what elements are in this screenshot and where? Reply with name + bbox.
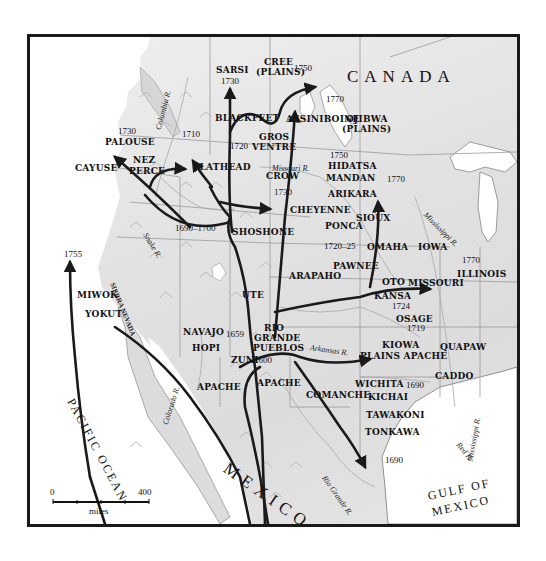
year-ojibwa: 1770: [326, 94, 344, 104]
year-ponca: 1720–25: [324, 241, 356, 251]
tribe-navajo: NAVAJO: [183, 327, 224, 337]
tribe-kichai: KICHAI: [368, 392, 408, 402]
tribe-gros-ventre-line1: GROS: [259, 132, 289, 142]
tribe-rio-grande-pueblos-line1: RIO: [264, 323, 284, 333]
tribe-pawnee: PAWNEE: [333, 261, 379, 271]
year-gros-ventre: 1720: [230, 141, 248, 151]
year-kiowa: 1719: [407, 323, 425, 333]
tribe-cayuse: CAYUSE: [75, 163, 118, 173]
tribe-crow: CROW: [266, 171, 299, 181]
year-missouri-upper: 1750: [330, 150, 348, 160]
tribe-wichita: WICHITA: [355, 379, 404, 389]
tribe-hopi: HOPI: [192, 343, 220, 353]
year-zuni: 1600: [254, 355, 272, 365]
tribe-quapaw: QUAPAW: [440, 342, 486, 352]
route-cree: [230, 87, 315, 132]
year-miwok: 1755: [64, 249, 82, 259]
tribe-oto: OTO: [382, 277, 405, 287]
tribe-nez-perce-line1: NEZ: [133, 155, 155, 165]
year-cree: 1750: [294, 63, 312, 73]
migration-map: CANADA MEXICO PACIFIC OCEAN GULF OF MEXI…: [27, 34, 520, 527]
route-crow: [220, 202, 270, 209]
tribe-gros-ventre-line2: VENTRE: [252, 142, 296, 152]
year-navajo: 1659: [226, 329, 244, 339]
tribe-kiowa: KIOWA: [382, 340, 419, 350]
tribe-rio-grande-pueblos-line3: PUEBLOS: [253, 343, 304, 353]
tribe-palouse: PALOUSE: [105, 137, 155, 147]
year-shoshone: 1690–1700: [175, 223, 216, 233]
tribe-kansa: KANSA: [374, 291, 411, 301]
year-sarsi: 1730: [221, 76, 239, 86]
year-texas: 1690: [385, 455, 403, 465]
tribe-ponca: PONCA: [325, 221, 363, 231]
scale-zero: 0: [50, 487, 55, 497]
tribe-nez-perce-line2: PERCE: [129, 166, 165, 176]
tribe-comanche: COMANCHE: [306, 390, 370, 400]
canada-label: CANADA: [347, 67, 456, 87]
tribe-arapaho: ARAPAHO: [289, 271, 341, 281]
tribe-flathead: FLATHEAD: [193, 162, 251, 172]
tribe-illinois: ILLINOIS: [457, 269, 506, 279]
tribe-ute: UTE: [242, 290, 264, 300]
year-osage: 1724: [392, 301, 410, 311]
tribe-iowa: IOWA: [418, 242, 447, 252]
tribe-arikara: ARIKARA: [328, 189, 377, 199]
year-crow: 1730: [274, 187, 292, 197]
tribe-hidatsa: HIDATSA: [328, 161, 377, 171]
scale-unit: miles: [89, 506, 109, 516]
scale-ruler: [52, 499, 152, 505]
tribe-ojibwa-line2: (PLAINS): [342, 124, 391, 134]
tribe-miwok: MIWOK: [77, 290, 118, 300]
tribe-shoshone: SHOSHONE: [232, 227, 294, 237]
tribe-cheyenne: CHEYENNE: [290, 205, 351, 215]
year-palouse: 1730: [118, 126, 136, 136]
route-sarsi: [229, 89, 232, 232]
tribe-caddo: CADDO: [435, 371, 474, 381]
tribe-blackfeet: BLACKFEET: [215, 113, 280, 123]
tribe-apache-west: APACHE: [197, 382, 241, 392]
scale-bar: 0 400 miles: [52, 489, 152, 503]
tribe-sarsi: SARSI: [216, 65, 249, 75]
tribe-mandan: MANDAN: [326, 173, 375, 183]
tribe-yokut: YOKUT: [85, 309, 122, 319]
tribe-omaha: OMAHA: [367, 242, 408, 252]
tribe-missouri: MISSOURI: [408, 278, 464, 288]
tribe-rio-grande-pueblos-line2: GRANDE: [254, 333, 300, 343]
tribe-tonkawa: TONKAWA: [365, 427, 420, 437]
year-blackfeet: 1710: [182, 129, 200, 139]
scale-max: 400: [138, 487, 152, 497]
tribe-ojibwa-line1: OJIBWA: [346, 114, 388, 124]
year-wichita: 1690: [406, 380, 424, 390]
tribe-tawakoni: TAWAKONI: [366, 410, 425, 420]
route-texas: [295, 362, 365, 467]
tribe-plains-apache: PLAINS APACHE: [360, 351, 447, 361]
tribe-apache-east: APACHE: [257, 378, 301, 388]
year-illinois: 1770: [462, 255, 480, 265]
year-mississippi-upper: 1770: [387, 174, 405, 184]
tribe-cree-line1: CREE: [264, 57, 293, 67]
